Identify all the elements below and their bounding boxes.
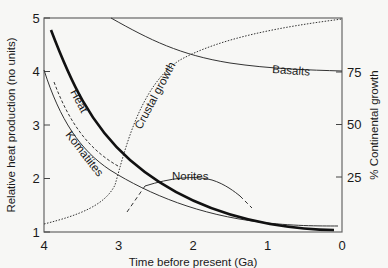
- y-tick-label: 3: [32, 118, 39, 133]
- crustal-growth-curve: [44, 19, 342, 224]
- y-tick-label: 5: [32, 11, 39, 26]
- norites-label: Norites: [172, 170, 209, 182]
- chart: 1 2 3 4 5 25 50 75 4 3 2 1 0 Time before…: [0, 0, 388, 268]
- left-y-axis: [44, 18, 50, 232]
- basalts-curve: [111, 18, 342, 71]
- y2-axis-title: % Continental growth: [368, 70, 380, 179]
- crustal-growth-label: Crustal growth: [132, 60, 177, 131]
- y2-tick-label: 75: [347, 65, 361, 80]
- y-tick-label: 2: [32, 171, 39, 186]
- y-axis-title: Relative heat production (no units): [5, 37, 17, 212]
- norites-dashed-start: [127, 186, 145, 212]
- y-tick-label: 1: [32, 225, 39, 240]
- y2-tick-label: 50: [347, 117, 361, 132]
- x-tick-label: 0: [338, 238, 345, 253]
- chart-svg: 1 2 3 4 5 25 50 75 4 3 2 1 0 Time before…: [0, 0, 388, 268]
- heat-curve: [51, 30, 334, 230]
- x-tick-label: 3: [115, 238, 122, 253]
- x-tick-label: 1: [264, 238, 271, 253]
- y2-tick-label: 25: [347, 170, 361, 185]
- x-axis-title: Time before present (Ga): [129, 256, 258, 268]
- norites-dashed-end: [240, 196, 252, 208]
- x-tick-label: 4: [40, 238, 47, 253]
- x-tick-label: 2: [189, 238, 196, 253]
- right-y-axis: [336, 72, 342, 177]
- y-tick-label: 4: [32, 64, 39, 79]
- basalts-label: Basalts: [272, 63, 311, 78]
